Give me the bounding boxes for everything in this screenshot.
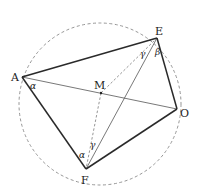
angle-alpha-at-F: α	[79, 150, 85, 160]
label-F: F	[81, 174, 89, 187]
angle-gamma-at-F: γ	[90, 140, 96, 150]
angle-alpha-at-A: α	[30, 81, 36, 91]
side-OF	[86, 109, 177, 169]
segment-MF-dashed	[86, 93, 101, 169]
label-E: E	[155, 25, 163, 38]
geometry-diagram: A E O F M α α β γ γ	[0, 0, 197, 189]
label-A: A	[10, 71, 20, 84]
diagonal-EF	[86, 38, 157, 169]
angle-gamma-at-E: γ	[140, 49, 146, 59]
angle-beta-at-E: β	[154, 47, 160, 57]
point-M-dot	[100, 92, 102, 94]
label-M: M	[94, 79, 105, 92]
label-O: O	[180, 107, 189, 120]
